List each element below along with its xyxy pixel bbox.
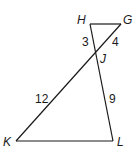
point-label-j: J [99, 52, 107, 66]
length-label-kj: 12 [35, 92, 49, 106]
length-label-hj: 3 [82, 35, 89, 49]
point-label-l: L [117, 135, 124, 149]
point-label-k: K [3, 135, 12, 149]
point-label-g: G [123, 13, 132, 27]
point-label-h: H [77, 13, 86, 27]
similar-triangles-diagram: H G J K L 3 4 12 9 [0, 0, 136, 158]
segment-hl [90, 24, 113, 141]
length-label-jl: 9 [109, 92, 116, 106]
length-label-gj: 4 [112, 35, 119, 49]
segment-gk [16, 24, 121, 141]
